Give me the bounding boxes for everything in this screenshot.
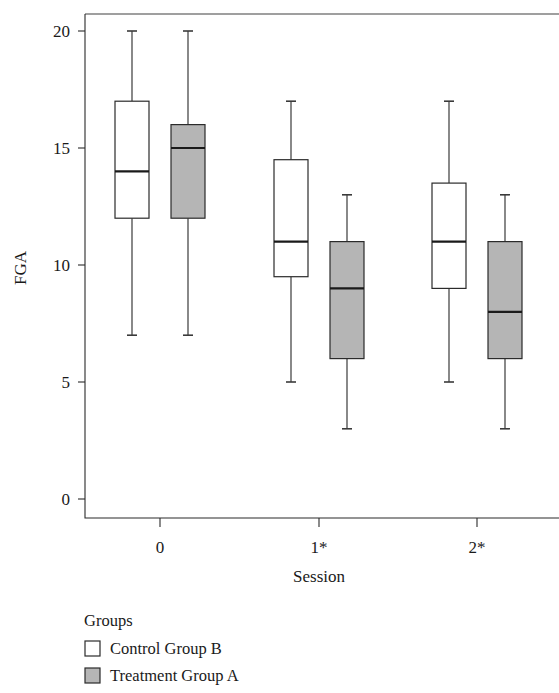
legend-swatch-treatment <box>85 668 100 683</box>
box-iqr <box>171 125 205 219</box>
box-iqr <box>432 183 466 288</box>
chart-canvas: 20 15 10 5 0 FGA 0 1* 2* Session Groups … <box>0 0 559 693</box>
box-iqr <box>115 101 149 218</box>
legend-title: Groups <box>84 611 133 630</box>
box-iqr <box>488 242 522 359</box>
box-plot-treatment-1*[interactable] <box>330 195 364 429</box>
box-plot-treatment-2*[interactable] <box>488 195 522 429</box>
y-tick-label-15: 15 <box>53 139 70 158</box>
legend-label-control: Control Group B <box>110 639 222 658</box>
legend-label-treatment: Treatment Group A <box>110 666 239 685</box>
y-axis-ticks: 20 15 10 5 0 <box>53 22 85 509</box>
legend-item-control[interactable]: Control Group B <box>85 639 222 658</box>
box-plot-treatment-0[interactable] <box>171 31 205 335</box>
box-plot-series-layer <box>115 31 522 429</box>
x-axis-ticks: 0 1* 2* <box>156 518 486 557</box>
x-tick-label-2: 2* <box>469 538 486 557</box>
box-plot-control-2*[interactable] <box>432 101 466 382</box>
box-iqr <box>274 160 308 277</box>
box-plot-figure: 20 15 10 5 0 FGA 0 1* 2* Session Groups … <box>0 0 559 693</box>
y-tick-label-10: 10 <box>53 256 70 275</box>
box-plot-control-0[interactable] <box>115 31 149 335</box>
x-tick-label-0: 0 <box>156 538 165 557</box>
x-axis-title: Session <box>293 567 345 586</box>
legend: Groups Control Group B Treatment Group A <box>84 611 239 685</box>
x-tick-label-1: 1* <box>311 538 328 557</box>
y-tick-label-20: 20 <box>53 22 70 41</box>
box-iqr <box>330 242 364 359</box>
y-axis-title: FGA <box>11 250 30 285</box>
legend-item-treatment[interactable]: Treatment Group A <box>85 666 239 685</box>
y-tick-label-5: 5 <box>62 373 71 392</box>
box-plot-control-1*[interactable] <box>274 101 308 382</box>
y-tick-label-0: 0 <box>62 490 71 509</box>
legend-swatch-control <box>85 641 100 656</box>
